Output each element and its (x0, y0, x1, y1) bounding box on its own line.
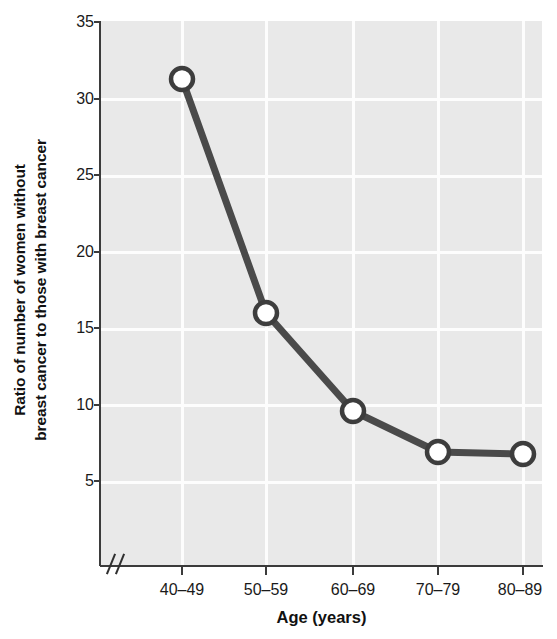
data-point-50-59 (255, 302, 277, 324)
chart-figure: Ratio of number of women without breast … (0, 0, 557, 639)
data-point-80-89 (512, 443, 534, 465)
data-point-40-49 (171, 68, 193, 90)
data-point-70-79 (427, 441, 449, 463)
y-tick-label-5: 5 (60, 472, 94, 490)
plot-area (101, 21, 542, 565)
y-axis-tick-labels: 35 30 25 20 15 10 5 (58, 0, 94, 639)
x-tick-mark-70-79 (437, 566, 439, 575)
x-axis-line (100, 565, 543, 567)
x-tick-mark-40-49 (181, 566, 183, 575)
data-series-ratio (101, 21, 542, 565)
x-axis-title: Age (years) (100, 608, 543, 627)
y-tick-label-30: 30 (60, 90, 94, 108)
y-tick-label-15: 15 (60, 319, 94, 337)
axis-break-icon (106, 553, 132, 577)
y-tick-label-25: 25 (60, 166, 94, 184)
y-axis-title: Ratio of number of women without breast … (0, 0, 62, 580)
y-tick-label-10: 10 (60, 396, 94, 414)
x-tick-mark-60-69 (352, 566, 354, 575)
y-axis-title-line-1: Ratio of number of women without (10, 139, 31, 441)
y-tick-label-35: 35 (60, 13, 94, 31)
x-tick-mark-80-89 (522, 566, 524, 575)
y-axis-line (99, 21, 101, 566)
series-line (182, 79, 523, 454)
x-tick-label-80-89: 80–89 (465, 581, 557, 599)
x-tick-mark-50-59 (265, 566, 267, 575)
y-tick-label-20: 20 (60, 243, 94, 261)
y-axis-title-line-2: breast cancer to those with breast cance… (31, 139, 52, 441)
data-point-60-69 (342, 400, 364, 422)
